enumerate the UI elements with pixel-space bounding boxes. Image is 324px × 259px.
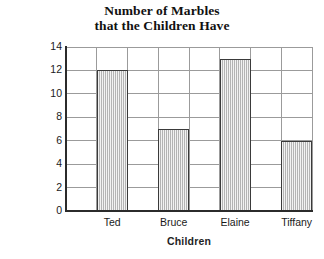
y-tick-label: 8 [32,111,62,122]
chart-title-line-2: that the Children Have [0,18,324,33]
bar-tiffany [281,141,312,211]
plot-top-border [66,47,312,48]
bar-chart-figure: Number of Marbles that the Children Have… [0,0,324,259]
y-tick-label: 4 [32,158,62,169]
bar-ted [97,70,128,211]
y-tick-label: 0 [32,205,62,216]
chart-title: Number of Marbles that the Children Have [0,3,324,33]
y-tick-label: 14 [32,41,62,52]
y-axis-tick-labels: 02468101214 [28,47,62,211]
chart-title-line-1: Number of Marbles [0,3,324,18]
y-tick-label: 2 [32,182,62,193]
x-tick-label-elaine: Elaine [204,216,266,228]
y-tick-label: 10 [32,88,62,99]
x-axis-tick-labels: TedBruceElaineTiffany [66,216,312,230]
x-axis-title: Children [66,235,312,247]
x-tick-label-bruce: Bruce [143,216,205,228]
y-tick-label: 12 [32,64,62,75]
bar-elaine [220,59,251,211]
plot-area [66,47,312,211]
x-axis-line [65,210,313,212]
x-tick-label-tiffany: Tiffany [266,216,324,228]
y-axis-line [65,46,67,212]
y-tick-label: 6 [32,135,62,146]
x-tick-label-ted: Ted [81,216,143,228]
bar-bruce [158,129,189,211]
